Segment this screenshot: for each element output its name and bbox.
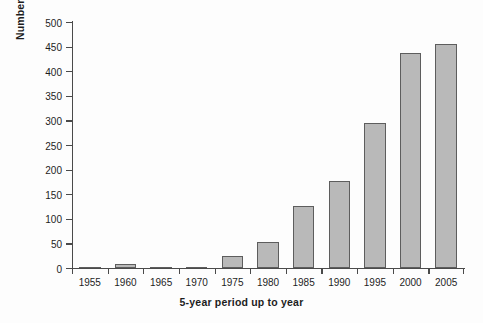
y-axis-tick: 100 bbox=[66, 219, 72, 220]
y-axis-tick: 250 bbox=[66, 145, 72, 146]
x-axis-tick-label: 2000 bbox=[399, 277, 421, 288]
y-axis-tick: 50 bbox=[66, 243, 72, 244]
y-axis-tick-label: 500 bbox=[45, 17, 62, 28]
x-axis-tick-label: 1990 bbox=[328, 277, 350, 288]
x-axis-tick bbox=[143, 268, 144, 274]
x-axis-tick bbox=[393, 268, 394, 274]
y-axis-tick: 150 bbox=[66, 194, 72, 195]
bar bbox=[435, 44, 456, 268]
y-axis-tick-label: 200 bbox=[45, 165, 62, 176]
x-axis-tick bbox=[286, 268, 287, 274]
x-axis-tick bbox=[321, 268, 322, 274]
x-axis-tick bbox=[179, 268, 180, 274]
y-axis-tick-label: 250 bbox=[45, 140, 62, 151]
x-axis-line bbox=[72, 268, 465, 269]
x-axis-tick-label: 2005 bbox=[435, 277, 457, 288]
bar bbox=[186, 267, 207, 268]
x-axis-tick bbox=[357, 268, 358, 274]
x-axis-tick bbox=[72, 268, 73, 274]
bar-chart: Number of exercise immunology publicatio… bbox=[0, 0, 483, 323]
x-axis-tick-label: 1995 bbox=[364, 277, 386, 288]
y-axis-tick: 450 bbox=[66, 47, 72, 48]
x-axis-title: 5-year period up to year bbox=[0, 296, 483, 308]
y-axis-tick-label: 150 bbox=[45, 189, 62, 200]
y-axis-tick: 400 bbox=[66, 71, 72, 72]
x-axis-tick-label: 1970 bbox=[186, 277, 208, 288]
y-axis-tick-label: 350 bbox=[45, 91, 62, 102]
x-axis-tick-label: 1975 bbox=[221, 277, 243, 288]
bar bbox=[79, 267, 100, 268]
y-axis-tick-label: 450 bbox=[45, 42, 62, 53]
y-axis-tick-label: 50 bbox=[51, 238, 62, 249]
y-axis-tick: 300 bbox=[66, 120, 72, 121]
x-axis-tick bbox=[463, 268, 464, 274]
bar bbox=[364, 123, 385, 268]
bar bbox=[329, 181, 350, 268]
x-axis-tick-label: 1965 bbox=[150, 277, 172, 288]
y-axis-tick-label: 0 bbox=[56, 263, 62, 274]
bar bbox=[222, 256, 243, 268]
x-axis-tick-label: 1985 bbox=[293, 277, 315, 288]
bar bbox=[293, 206, 314, 268]
x-axis-tick bbox=[215, 268, 216, 274]
x-axis-tick bbox=[108, 268, 109, 274]
bar bbox=[115, 264, 136, 268]
x-axis-tick-label: 1980 bbox=[257, 277, 279, 288]
plot-area: 0501001502002503003504004505001955196019… bbox=[72, 22, 464, 268]
bar bbox=[257, 242, 278, 268]
y-axis-tick-label: 400 bbox=[45, 66, 62, 77]
y-axis-tick: 200 bbox=[66, 170, 72, 171]
bar bbox=[400, 53, 421, 268]
y-axis-title: Number of exercise immunology publicatio… bbox=[13, 0, 27, 40]
x-axis-tick bbox=[250, 268, 251, 274]
y-axis-tick: 500 bbox=[66, 22, 72, 23]
y-axis-tick: 350 bbox=[66, 96, 72, 97]
y-axis-tick-label: 300 bbox=[45, 115, 62, 126]
bar bbox=[150, 267, 171, 268]
x-axis-tick-label: 1955 bbox=[79, 277, 101, 288]
x-axis-tick-label: 1960 bbox=[114, 277, 136, 288]
y-axis-tick-label: 100 bbox=[45, 214, 62, 225]
x-axis-tick bbox=[428, 268, 429, 274]
